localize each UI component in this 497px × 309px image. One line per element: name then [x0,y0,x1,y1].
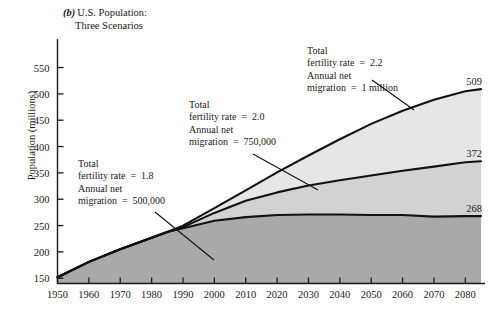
x-tick-1990: 1990 [172,289,193,300]
chart-canvas: 1502002503003504004505005501950196019701… [0,0,497,309]
figure-panel-b: (b)U.S. Population: Three Scenarios Popu… [0,0,497,309]
end-label-high: 509 [466,76,482,87]
y-tick-200: 200 [34,247,50,258]
end-label-middle: 372 [466,148,482,159]
x-tick-2030: 2030 [298,289,319,300]
y-tick-300: 300 [34,194,50,205]
x-tick-2080: 2080 [455,289,476,300]
x-tick-2060: 2060 [392,289,413,300]
y-tick-250: 250 [34,221,50,232]
end-label-low: 268 [466,203,482,214]
y-tick-150: 150 [34,273,50,284]
y-tick-400: 400 [34,142,50,153]
y-tick-500: 500 [34,89,50,100]
y-tick-450: 450 [34,115,50,126]
x-tick-1950: 1950 [47,289,68,300]
area-bands [58,89,482,283]
x-tick-2020: 2020 [267,289,288,300]
y-tick-550: 550 [34,63,50,74]
leader-line-2 [372,80,414,110]
x-tick-2070: 2070 [423,289,444,300]
x-tick-1980: 1980 [141,289,162,300]
x-tick-2000: 2000 [204,289,225,300]
y-tick-350: 350 [34,168,50,179]
x-tick-2010: 2010 [235,289,256,300]
x-tick-1960: 1960 [78,289,99,300]
x-tick-2050: 2050 [361,289,382,300]
x-tick-2040: 2040 [329,289,350,300]
x-tick-1970: 1970 [110,289,131,300]
